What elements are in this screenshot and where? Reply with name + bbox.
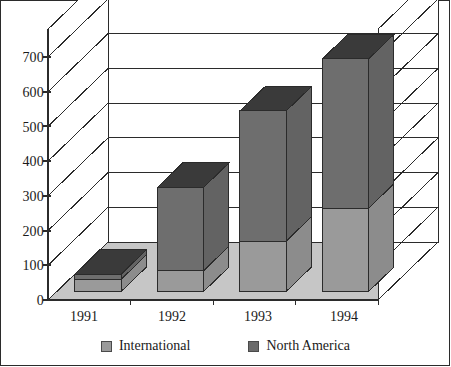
y-tick-label: 600 [6, 86, 44, 100]
legend-swatch-icon [101, 341, 112, 352]
x-tick-label: 1992 [146, 310, 198, 324]
legend-label: International [119, 339, 191, 353]
legend-item-north-america[interactable]: North America [248, 339, 350, 353]
legend-swatch-icon [248, 341, 259, 352]
y-tick-label: 200 [6, 225, 44, 239]
chart-legend: International North America [0, 334, 451, 358]
legend-label: North America [266, 339, 350, 353]
y-tick-label: 400 [6, 155, 44, 169]
y-tick-label: 700 [6, 51, 44, 65]
legend-item-international[interactable]: International [101, 339, 191, 353]
y-tick-label: 500 [6, 121, 44, 135]
x-tick-label: 1991 [58, 310, 110, 324]
x-tick-label: 1993 [232, 310, 284, 324]
y-tick-label: 0 [6, 294, 44, 308]
y-tick-label: 300 [6, 190, 44, 204]
chart-screenshot: 700 600 500 400 300 200 100 0 1991 1992 … [0, 0, 451, 367]
y-tick-label: 100 [6, 259, 44, 273]
x-tick-label: 1994 [318, 310, 370, 324]
